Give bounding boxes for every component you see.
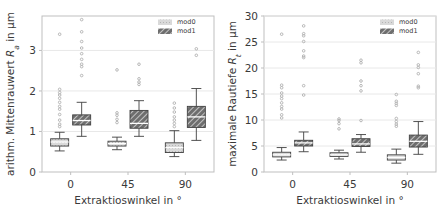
boxplot-figure: 012304590Extraktioswinkel in °arithm. Mi… bbox=[0, 0, 443, 213]
legend-label-mod0: mod0 bbox=[399, 18, 418, 26]
x-tick-label: 90 bbox=[179, 178, 192, 190]
x-tick-label: 45 bbox=[343, 178, 356, 190]
y-axis-title: maximale Rautiefe Rt in µm bbox=[226, 21, 243, 167]
y-tick-label: 10 bbox=[245, 114, 258, 126]
x-tick-label: 0 bbox=[289, 178, 296, 190]
y-tick-label: 2 bbox=[29, 85, 36, 97]
x-tick-label: 45 bbox=[121, 178, 134, 190]
legend-label-mod0: mod0 bbox=[177, 18, 196, 26]
y-tick-label: 0 bbox=[29, 166, 36, 178]
y-axis-title-pre: arithm. Mittenrauwert bbox=[4, 57, 16, 176]
x-tick-label: 90 bbox=[401, 178, 414, 190]
chart-canvas-left: 012304590Extraktioswinkel in °arithm. Mi… bbox=[0, 0, 221, 213]
chart-panel-left: 012304590Extraktioswinkel in °arithm. Mi… bbox=[0, 0, 221, 213]
legend-swatch-mod0 bbox=[158, 20, 172, 26]
y-tick-label: 1 bbox=[29, 125, 36, 137]
chart-canvas-right: 05101520253004590Extraktioswinkel in °ma… bbox=[222, 0, 443, 213]
legend-swatch-mod1 bbox=[380, 29, 394, 35]
y-axis-title-post: in µm bbox=[4, 12, 16, 45]
y-axis-title-pre: maximale Rautiefe bbox=[226, 65, 238, 167]
chart-panel-right: 05101520253004590Extraktioswinkel in °ma… bbox=[222, 0, 443, 213]
y-axis-title: arithm. Mittenrauwert Ra in µm bbox=[4, 12, 21, 176]
x-axis-title: Extraktioswinkel in ° bbox=[296, 194, 403, 206]
y-axis-title-post: in µm bbox=[226, 21, 238, 54]
y-tick-label: 25 bbox=[245, 36, 258, 48]
y-tick-label: 5 bbox=[251, 140, 258, 152]
legend-label-mod1: mod1 bbox=[177, 27, 196, 35]
y-axis-title-symbol: R bbox=[226, 57, 238, 64]
box-body bbox=[130, 110, 148, 128]
legend-swatch-mod1 bbox=[158, 29, 172, 35]
y-axis-title-symbol: R bbox=[4, 50, 16, 57]
x-axis-title: Extraktioswinkel in ° bbox=[74, 194, 181, 206]
y-tick-label: 3 bbox=[29, 44, 36, 56]
y-tick-label: 30 bbox=[245, 10, 258, 22]
legend-swatch-mod0 bbox=[380, 20, 394, 26]
plot-frame bbox=[42, 16, 214, 172]
y-tick-label: 0 bbox=[251, 166, 258, 178]
y-tick-label: 20 bbox=[245, 62, 258, 74]
legend-label-mod1: mod1 bbox=[399, 27, 418, 35]
x-tick-label: 0 bbox=[67, 178, 74, 190]
box-body bbox=[352, 139, 370, 147]
y-tick-label: 15 bbox=[245, 88, 258, 100]
